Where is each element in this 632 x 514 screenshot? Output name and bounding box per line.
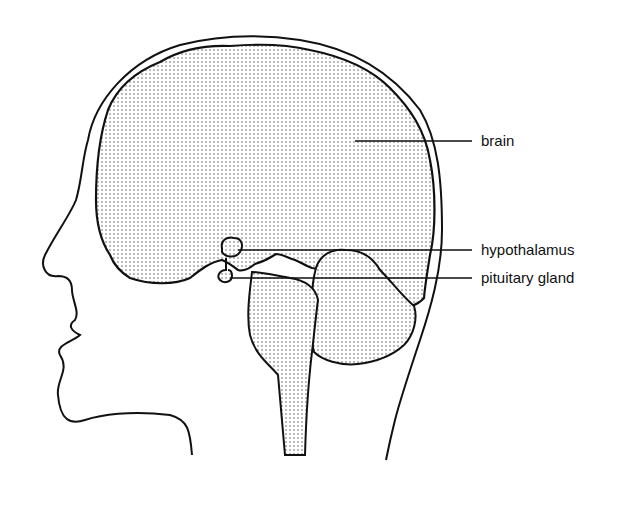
brain-shape [96,45,435,307]
brainstem-shape [248,272,318,455]
hypothalamus-label: hypothalamus [481,242,574,257]
brain-label: brain [481,133,514,148]
hypothalamus-shape [222,237,242,256]
pituitary-gland-label: pituitary gland [481,270,574,285]
